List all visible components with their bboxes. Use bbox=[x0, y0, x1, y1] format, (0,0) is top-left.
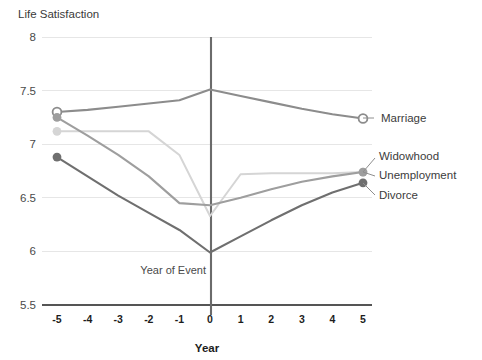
y-tick-label: 5.5 bbox=[20, 299, 36, 311]
x-tick-label: 0 bbox=[207, 313, 213, 325]
x-tick-label: 5 bbox=[360, 313, 366, 325]
y-tick-label: 6.5 bbox=[20, 192, 36, 204]
legend-leader-divorce bbox=[363, 183, 375, 195]
data-point-divorce[interactable] bbox=[53, 153, 62, 162]
legend-item-unemployment[interactable]: Unemployment bbox=[379, 169, 457, 181]
x-axis-title: Year bbox=[195, 342, 220, 354]
y-axis-title: Life Satisfaction bbox=[18, 8, 99, 20]
life-satisfaction-chart: Life Satisfaction 8 7.5 7 6.5 6 5.5 -5-4… bbox=[0, 0, 482, 360]
y-tick-label: 7.5 bbox=[20, 85, 36, 97]
y-tick-label: 7 bbox=[30, 138, 36, 150]
x-axis-ticks: -5-4-3-2-1012345 bbox=[52, 313, 366, 325]
legend-item-divorce[interactable]: Divorce bbox=[379, 189, 418, 201]
data-point-unemployment[interactable] bbox=[53, 113, 62, 122]
x-tick-label: -3 bbox=[114, 313, 123, 325]
x-tick-label: -2 bbox=[144, 313, 153, 325]
y-axis-ticks: 8 7.5 7 6.5 6 5.5 bbox=[20, 31, 36, 311]
x-tick-label: 4 bbox=[329, 313, 335, 325]
x-tick-label: -4 bbox=[83, 313, 92, 325]
legend-leader-widowhood bbox=[363, 158, 375, 172]
y-tick-label: 6 bbox=[30, 245, 36, 257]
x-tick-label: -1 bbox=[175, 313, 184, 325]
legend-item-widowhood[interactable]: Widowhood bbox=[379, 150, 439, 162]
chart-svg: Life Satisfaction 8 7.5 7 6.5 6 5.5 -5-4… bbox=[0, 0, 482, 360]
x-tick-label: 1 bbox=[238, 313, 244, 325]
x-tick-label: 3 bbox=[299, 313, 305, 325]
data-point-widowhood[interactable] bbox=[53, 127, 62, 136]
x-tick-label: -5 bbox=[52, 313, 61, 325]
legend-item-marriage[interactable]: Marriage bbox=[381, 112, 426, 124]
year-of-event-label: Year of Event bbox=[140, 264, 206, 276]
legend: Marriage Widowhood Unemployment Divorce bbox=[363, 112, 457, 201]
y-tick-label: 8 bbox=[30, 31, 36, 43]
x-tick-label: 2 bbox=[268, 313, 274, 325]
gridlines bbox=[42, 37, 372, 251]
